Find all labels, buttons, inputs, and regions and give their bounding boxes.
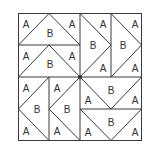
triangle-label-a: A [23,19,30,30]
triangle-label-b: B [108,85,115,96]
triangle-label-b: B [47,28,54,39]
triangle-label-a: A [132,19,139,30]
triangle-label-a: A [85,127,92,138]
triangle-label-a: A [69,19,76,30]
triangle-label-b: B [90,40,97,51]
triangle-label-a: A [23,51,30,62]
triangle-label-b: B [108,117,115,128]
triangle-label-b: B [64,104,71,115]
triangle-label-b: B [47,59,54,70]
center-dot [78,75,82,79]
triangle-label-b: B [120,40,127,51]
triangle-label-a: A [132,127,139,138]
triangle-label-a: A [69,51,76,62]
triangle-label-a: A [100,63,107,74]
triangle-label-a: A [54,126,61,137]
triangle-label-a: A [132,95,139,106]
triangle-label-a: A [100,19,107,30]
triangle-label-a: A [23,83,30,94]
quilt-diagram: ABAABAABAABAABAABAABAABA [0,0,149,154]
triangle-label-a: A [132,63,139,74]
triangle-label-a: A [85,95,92,106]
triangle-label-b: B [34,104,41,115]
triangle-label-a: A [23,126,30,137]
triangle-label-a: A [54,83,61,94]
